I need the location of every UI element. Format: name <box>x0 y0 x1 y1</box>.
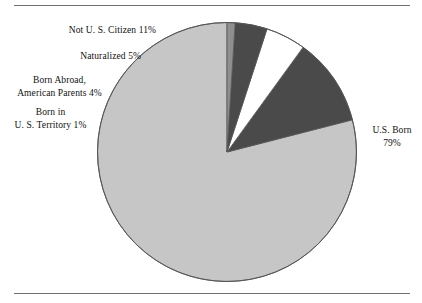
slice-label-us-born-line1: U.S. Born <box>366 124 418 137</box>
bottom-divider-rule <box>14 293 410 294</box>
figure-container: Not U. S. Citizen 11% Naturalized 5% Bor… <box>0 0 422 303</box>
top-divider-rule <box>14 5 410 6</box>
slice-label-not-us-citizen: Not U. S. Citizen 11% <box>0 24 156 37</box>
slice-label-us-born-line2: 79% <box>366 137 418 150</box>
slice-label-naturalized-text: Naturalized 5% <box>80 51 141 61</box>
slice-label-born-in-us-territory: Born in U. S. Territory 1% <box>0 106 101 131</box>
slice-label-born-in-us-territory-line1: Born in <box>0 106 101 119</box>
slice-label-not-us-citizen-text: Not U. S. Citizen 11% <box>69 25 156 35</box>
slice-label-born-abroad-line2: American Parents 4% <box>0 87 119 100</box>
slice-label-born-abroad: Born Abroad, American Parents 4% <box>0 74 119 99</box>
slice-label-born-abroad-line1: Born Abroad, <box>0 74 119 87</box>
slice-label-us-born: U.S. Born 79% <box>366 124 418 149</box>
slice-label-naturalized: Naturalized 5% <box>0 50 141 63</box>
slice-label-born-in-us-territory-line2: U. S. Territory 1% <box>0 119 101 132</box>
